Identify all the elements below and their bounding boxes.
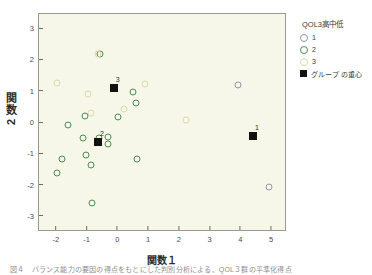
y-axis-tick-label: 3 [30, 24, 39, 33]
y-axis-tick-mark [39, 153, 43, 154]
legend: QOL3高中低 123グループ の重心 [300, 18, 372, 80]
circle-marker-icon [300, 34, 308, 42]
data-point-group-3 [142, 81, 149, 88]
data-point-group-2 [130, 88, 137, 95]
data-point-group-3 [85, 91, 92, 98]
x-axis-tick-label: 5 [269, 230, 273, 244]
data-point-group-2 [132, 99, 139, 106]
x-axis-tick-label: 2 [177, 230, 181, 244]
legend-item-label: 1 [312, 34, 316, 41]
y-axis-title-number: 2 [5, 115, 17, 129]
x-axis-tick-mark [55, 226, 56, 230]
centroid-label-1: 1 [255, 124, 259, 131]
y-axis-tick-mark [39, 59, 43, 60]
legend-title: QOL3高中低 [302, 18, 372, 29]
data-point-group-2 [83, 152, 90, 159]
legend-item-3[interactable]: 3 [300, 56, 372, 67]
legend-item-centroid[interactable]: グループ の重心 [300, 68, 372, 79]
y-axis-tick-mark [39, 215, 43, 216]
y-axis-tick-label: 1 [30, 86, 39, 95]
data-point-group-1 [266, 183, 273, 190]
y-axis-title-main: 関数 [4, 92, 18, 116]
data-point-group-3 [95, 50, 102, 57]
data-point-group-2 [80, 134, 87, 141]
y-axis-title: 関数 2 [4, 92, 18, 128]
y-axis-tick-mark [39, 122, 43, 123]
legend-items: 123グループ の重心 [300, 32, 372, 79]
x-axis-tick-label: 0 [115, 230, 119, 244]
data-point-group-3 [88, 110, 95, 117]
x-axis-tick-label: 1 [146, 230, 150, 244]
y-axis-tick-label: 2 [30, 55, 39, 64]
legend-item-label: グループ の重心 [311, 69, 362, 79]
y-axis-tick-mark [39, 28, 43, 29]
data-point-group-2 [64, 122, 71, 129]
data-point-group-2 [115, 113, 122, 120]
x-axis-tick-mark [86, 226, 87, 230]
legend-item-2[interactable]: 2 [300, 44, 372, 55]
data-point-group-1 [234, 81, 241, 88]
x-axis-tick-mark [209, 226, 210, 230]
centroid-marker-2 [94, 138, 102, 146]
x-axis-tick-mark [271, 226, 272, 230]
x-axis-tick-label: 3 [208, 230, 212, 244]
y-axis-tick-label: -2 [27, 180, 39, 189]
data-point-group-2 [54, 169, 61, 176]
data-point-group-3 [53, 80, 60, 87]
legend-item-1[interactable]: 1 [300, 32, 372, 43]
scatter-plot-figure: 関数 2 3210-1-2-3-2-1012345123 関数１ QOL3高中低… [0, 0, 372, 275]
legend-item-label: 2 [312, 46, 316, 53]
plot-area: 3210-1-2-3-2-1012345123 [38, 13, 286, 231]
centroid-label-3: 3 [116, 76, 120, 83]
centroid-marker-1 [249, 132, 257, 140]
y-axis-tick-label: -1 [27, 149, 39, 158]
figure-caption: 図４ バランス能力の要因の得点をもとにした判別分析による、QOL３群の平準化得点 [10, 264, 372, 274]
y-axis-tick-mark [39, 184, 43, 185]
y-axis-tick-label: 0 [30, 118, 39, 127]
data-point-group-2 [88, 161, 95, 168]
x-axis-tick-label: 4 [238, 230, 242, 244]
data-point-group-2 [134, 156, 141, 163]
legend-item-label: 3 [312, 58, 316, 65]
data-point-group-3 [182, 117, 189, 124]
data-point-group-2 [89, 200, 96, 207]
x-axis-tick-mark [240, 226, 241, 230]
centroid-marker-3 [110, 84, 118, 92]
circle-marker-icon [300, 58, 308, 66]
centroid-label-2: 2 [100, 130, 104, 137]
x-axis-tick-label: -2 [53, 230, 60, 244]
x-axis-tick-mark [148, 226, 149, 230]
y-axis-tick-mark [39, 90, 43, 91]
square-marker-icon [300, 70, 307, 77]
y-axis-tick-label: -3 [27, 211, 39, 220]
x-axis-tick-mark [117, 226, 118, 230]
circle-marker-icon [300, 46, 308, 54]
data-point-group-2 [58, 156, 65, 163]
x-axis-tick-mark [178, 226, 179, 230]
data-point-group-2 [105, 140, 112, 147]
x-axis-tick-label: -1 [83, 230, 90, 244]
data-point-group-3 [120, 106, 127, 113]
